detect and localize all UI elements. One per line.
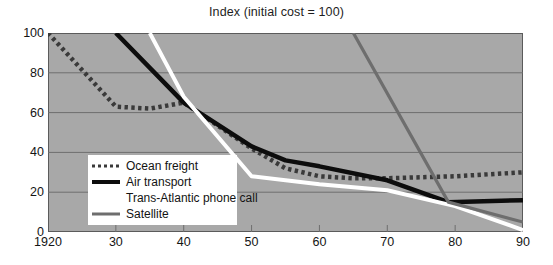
y-tick-label: 80: [30, 66, 44, 80]
legend-item-label: Trans-Atlantic phone call: [126, 191, 258, 205]
legend-item-label: Ocean freight: [126, 159, 198, 173]
x-tick-label: 30: [109, 235, 123, 249]
x-tick-label: 40: [177, 235, 191, 249]
chart-title: Index (initial cost = 100): [0, 5, 553, 19]
series-line-satellite: [353, 33, 523, 222]
chart-figure: Index (initial cost = 100) 020406080100 …: [0, 0, 553, 265]
legend-item: Air transport: [91, 174, 233, 190]
chart-legend: Ocean freightAir transportTrans-Atlantic…: [88, 155, 237, 225]
solid-white-line-icon: [91, 192, 121, 204]
y-tick-label: 40: [30, 145, 44, 159]
x-tick-label: 80: [448, 235, 462, 249]
x-tick-label: 50: [245, 235, 259, 249]
y-tick-label: 100: [23, 26, 44, 40]
x-tick-label: 90: [516, 235, 530, 249]
y-tick-label: 60: [30, 106, 44, 120]
x-tick-label: 1920: [34, 235, 62, 249]
legend-item-label: Air transport: [126, 175, 191, 189]
x-axis: 192030405060708090: [48, 235, 523, 257]
y-tick-label: 20: [30, 185, 44, 199]
legend-item: Trans-Atlantic phone call: [91, 190, 233, 206]
y-axis: 020406080100: [0, 33, 44, 232]
solid-black-line-icon: [91, 176, 121, 188]
legend-item: Ocean freight: [91, 158, 233, 174]
legend-item-label: Satellite: [126, 207, 169, 221]
legend-item: Satellite: [91, 206, 233, 222]
dotted-dark-line-icon: [91, 160, 121, 172]
x-tick-label: 70: [380, 235, 394, 249]
solid-gray-line-icon: [91, 208, 121, 220]
x-tick-label: 60: [312, 235, 326, 249]
